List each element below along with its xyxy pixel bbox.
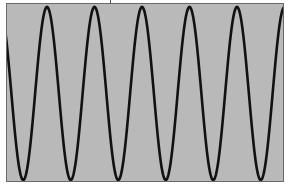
waveform-line	[0, 7, 289, 180]
sine-waveform-trace	[0, 0, 289, 186]
